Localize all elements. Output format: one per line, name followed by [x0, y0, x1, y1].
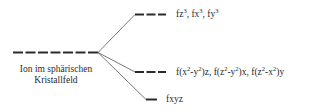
middle-level-label: f(x2-y2)z, f(z2-y2)x, f(z2-x2)y — [176, 67, 284, 78]
upper-level-label: fz3, fx3, fy3 — [176, 9, 218, 20]
source-level-label: Ion im sphärischen Kristallfeld — [8, 64, 104, 86]
source-label-line1: Ion im sphärischen — [8, 64, 104, 75]
splitting-diagram — [0, 0, 310, 112]
source-label-line2: Kristallfeld — [8, 75, 104, 86]
lower-level-label: fxyz — [166, 94, 183, 105]
connector-lines — [98, 15, 146, 100]
